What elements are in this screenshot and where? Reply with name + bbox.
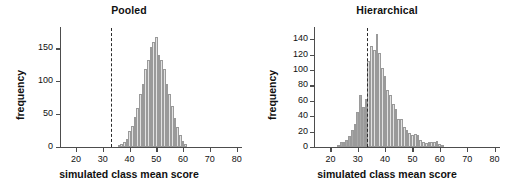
- panel-title-pooled: Pooled: [0, 4, 258, 16]
- x-axis-tick-label: 50: [142, 154, 170, 164]
- x-axis-tick-label: 70: [196, 154, 224, 164]
- reference-line-observed-mean: [111, 28, 112, 147]
- y-axis-title-hierarchical: frequency: [266, 70, 278, 120]
- y-axis-tick-label: 120: [278, 49, 308, 59]
- x-axis-tick-label: 40: [371, 154, 399, 164]
- x-axis-title-hierarchical: simulated class mean score: [258, 168, 516, 180]
- x-axis-tick-label: 80: [223, 154, 251, 164]
- y-axis-tick: [56, 81, 60, 82]
- y-axis-tick: [310, 147, 314, 148]
- y-axis-tick: [310, 39, 314, 40]
- y-axis-tick-label: 0: [278, 141, 308, 151]
- y-axis-tick-label: 40: [278, 110, 308, 120]
- plot-area-pooled: 20304050607080050100150: [60, 30, 242, 147]
- y-axis-tick-label: 100: [278, 64, 308, 74]
- x-axis-tick: [440, 148, 441, 152]
- y-axis-tick: [310, 116, 314, 117]
- figure-histogram-pair: Pooled frequency simulated class mean sc…: [0, 0, 516, 192]
- panel-hierarchical: Hierarchical frequency simulated class m…: [258, 0, 516, 192]
- y-axis-tick: [56, 48, 60, 49]
- x-axis-tick-label: 60: [169, 154, 197, 164]
- panel-pooled: Pooled frequency simulated class mean sc…: [0, 0, 258, 192]
- x-axis-tick: [130, 148, 131, 152]
- x-axis-tick: [495, 148, 496, 152]
- x-axis-tick: [330, 148, 331, 152]
- x-axis-tick: [210, 148, 211, 152]
- y-axis-tick-label: 0: [23, 141, 53, 151]
- x-axis-tick-label: 30: [344, 154, 372, 164]
- x-axis-tick-label: 60: [426, 154, 454, 164]
- x-axis-tick: [412, 148, 413, 152]
- reference-line-observed-mean: [367, 28, 368, 147]
- y-axis-tick: [310, 55, 314, 56]
- x-axis-tick-label: 30: [89, 154, 117, 164]
- x-axis-tick: [103, 148, 104, 152]
- y-axis-tick: [310, 132, 314, 133]
- x-axis-tick-label: 70: [453, 154, 481, 164]
- y-axis-tick-label: 150: [23, 42, 53, 52]
- x-axis-tick-label: 80: [481, 154, 509, 164]
- x-axis-tick: [76, 148, 77, 152]
- x-axis-tick: [156, 148, 157, 152]
- x-axis-title-pooled: simulated class mean score: [0, 168, 258, 180]
- x-axis-tick: [467, 148, 468, 152]
- x-axis-tick-label: 20: [316, 154, 344, 164]
- x-axis-line: [60, 147, 242, 148]
- y-axis-tick-label: 50: [23, 108, 53, 118]
- x-axis-tick: [358, 148, 359, 152]
- y-axis-tick: [310, 101, 314, 102]
- x-axis-tick-label: 40: [116, 154, 144, 164]
- y-axis-tick: [56, 147, 60, 148]
- y-axis-tick-label: 60: [278, 95, 308, 105]
- x-axis-line: [314, 147, 500, 148]
- x-axis-tick: [183, 148, 184, 152]
- x-axis-tick: [237, 148, 238, 152]
- y-axis-line: [314, 27, 315, 147]
- y-axis-tick: [56, 114, 60, 115]
- panel-title-hierarchical: Hierarchical: [258, 4, 516, 16]
- x-axis-tick-label: 50: [398, 154, 426, 164]
- y-axis-tick-label: 80: [278, 79, 308, 89]
- y-axis-tick-label: 140: [278, 33, 308, 43]
- y-axis-tick-label: 20: [278, 126, 308, 136]
- plot-area-hierarchical: 20304050607080020406080100120140: [314, 30, 500, 147]
- x-axis-tick-label: 20: [62, 154, 90, 164]
- x-axis-tick: [385, 148, 386, 152]
- y-axis-tick: [310, 70, 314, 71]
- y-axis-tick: [310, 85, 314, 86]
- y-axis-tick-label: 100: [23, 75, 53, 85]
- y-axis-line: [60, 27, 61, 147]
